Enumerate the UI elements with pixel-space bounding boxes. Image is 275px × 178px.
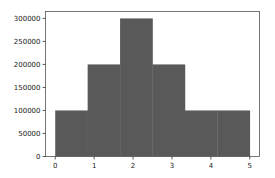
- x-tick-label: 3: [170, 162, 174, 170]
- y-tick-label: 300000: [14, 15, 41, 23]
- histogram-bar: [120, 18, 153, 156]
- histogram-bar: [217, 110, 250, 156]
- y-tick-label: 50000: [18, 130, 40, 138]
- x-tick-label: 1: [92, 162, 96, 170]
- y-tick-label: 250000: [14, 38, 41, 46]
- histogram-bar: [153, 64, 186, 156]
- histogram-bar: [88, 64, 121, 156]
- y-tick-label: 150000: [14, 84, 41, 92]
- x-tick-label: 2: [131, 162, 135, 170]
- histogram-bars: [55, 18, 250, 156]
- y-tick-label: 200000: [14, 61, 41, 69]
- x-tick-label: 0: [53, 162, 57, 170]
- y-axis-ticks: 050000100000150000200000250000300000: [14, 15, 46, 161]
- y-tick-label: 100000: [14, 107, 41, 115]
- histogram-bar: [55, 110, 88, 156]
- y-tick-label: 0: [36, 153, 40, 161]
- x-tick-label: 5: [248, 162, 252, 170]
- x-axis-ticks: 012345: [53, 157, 252, 170]
- histogram-chart: 012345 050000100000150000200000250000300…: [0, 0, 275, 178]
- x-tick-label: 4: [209, 162, 214, 170]
- histogram-bar: [185, 110, 218, 156]
